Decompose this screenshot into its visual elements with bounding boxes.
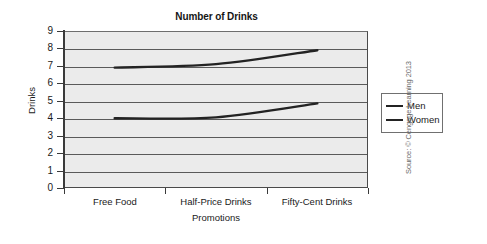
x-axis-tick <box>267 188 268 194</box>
y-axis-tick <box>57 48 64 49</box>
legend-line-swatch-icon <box>386 119 403 121</box>
series-line-women <box>115 103 318 118</box>
x-axis-tick <box>368 188 369 194</box>
x-axis-category-label: Half-Price Drinks <box>161 196 271 207</box>
y-axis-tick <box>57 118 64 119</box>
y-axis-tick <box>57 153 64 154</box>
y-axis-tick <box>57 66 64 67</box>
x-axis-tick <box>165 188 166 194</box>
y-axis-tick-label: 1 <box>27 166 53 176</box>
y-axis-tick-label: 8 <box>27 43 53 53</box>
legend-item-men: Men <box>386 99 442 113</box>
chart-figure: Number of Drinks 0123456789 Free FoodHal… <box>0 0 487 244</box>
y-axis-tick-label: 9 <box>27 26 53 36</box>
chart-title: Number of Drinks <box>64 11 369 22</box>
y-axis-tick-label: 2 <box>27 148 53 158</box>
x-axis-title: Promotions <box>64 212 368 223</box>
x-axis-tick <box>64 188 65 194</box>
legend-item-women: Women <box>386 113 442 127</box>
source-credit: Source: © Cengage Learning 2013 <box>404 34 413 174</box>
y-axis-tick <box>57 136 64 137</box>
data-series-layer <box>64 31 368 188</box>
legend-line-swatch-icon <box>386 105 403 107</box>
y-axis-tick-label: 3 <box>27 131 53 141</box>
y-axis-tick <box>57 31 64 32</box>
x-axis-category-label: Free Food <box>60 196 170 207</box>
y-axis-tick <box>57 101 64 102</box>
y-axis-tick <box>57 83 64 84</box>
y-axis-tick <box>57 171 64 172</box>
y-axis-title: Drinks <box>26 69 37 133</box>
series-line-men <box>115 50 318 67</box>
y-axis-tick <box>57 188 64 189</box>
y-axis-tick-label: 0 <box>27 183 53 193</box>
x-axis-category-label: Fifty-Cent Drinks <box>262 196 372 207</box>
